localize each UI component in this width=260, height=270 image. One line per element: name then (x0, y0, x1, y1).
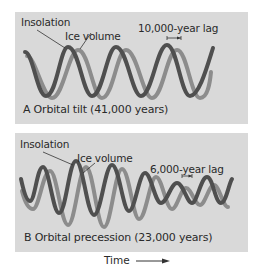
insolation-pointer (37, 30, 65, 48)
time-label: Time (104, 254, 130, 266)
arrow-right-icon (136, 257, 170, 265)
panel-orbital-tilt: Insolation Ice volume 10,000-year lag A … (15, 12, 248, 124)
panel-caption: B Orbital precession (23,000 years) (24, 231, 212, 244)
panel-orbital-precession: Insolation Ice volume 6,000-year lag B O… (15, 133, 248, 252)
panel-caption: A Orbital tilt (41,000 years) (23, 103, 168, 116)
insolation-curve (25, 45, 213, 96)
lag-label: 6,000-year lag (150, 163, 224, 175)
ice-volume-label: Ice volume (65, 30, 121, 42)
insolation-pointer (43, 152, 73, 165)
ice-volume-label: Ice volume (77, 152, 133, 164)
lag-label: 10,000-year lag (138, 22, 218, 34)
time-axis-label: Time (104, 254, 170, 266)
insolation-label: Insolation (20, 138, 69, 150)
insolation-label: Insolation (21, 16, 70, 28)
